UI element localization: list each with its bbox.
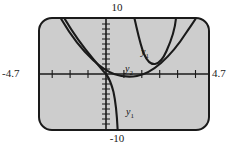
window-xmin-label: -4.7 [2,68,19,79]
window-ymax-label: 10 [0,2,234,13]
window-ymin-label: -10 [0,133,234,144]
curve-label-y1-upper-sub: 1 [145,52,149,60]
curve-label-y2: y2 [125,64,133,77]
curve-label-y1-upper: y1 [141,47,149,60]
curve-label-y2-sub: 2 [129,69,133,77]
plot-area: y1 y2 y1 [40,19,208,129]
window-xmax-label: 4.7 [212,68,226,79]
curve-label-y1-lower-sub: 1 [130,112,134,120]
figure-root: 10 -10 -4.7 4.7 [0,0,234,148]
plot-svg [40,19,208,129]
curve-label-y1-lower: y1 [126,107,134,120]
calculator-screen: y1 y2 y1 [38,17,210,131]
